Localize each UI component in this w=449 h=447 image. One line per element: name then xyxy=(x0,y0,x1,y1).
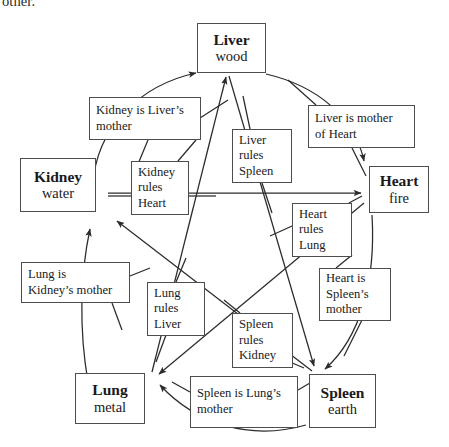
node-kidney-phase: water xyxy=(42,185,74,202)
node-liver-name: Liver xyxy=(213,31,249,48)
leader-heart-lung-b xyxy=(349,196,362,203)
label-lung-is-kidneys-mother[interactable]: Lung is Kidney’s mother xyxy=(21,262,130,303)
label-liver-spleen-line1: Liver xyxy=(239,133,266,149)
label-liver-spleen-line3: Spleen xyxy=(239,164,273,180)
leader-spleen-kidney-a xyxy=(224,300,240,313)
leader-liver-spleen-a xyxy=(243,96,250,129)
label-spleen-is-lungs-mother[interactable]: Spleen is Lung’s mother xyxy=(190,376,298,428)
label-lung-rules-liver[interactable]: Lung rules Liver xyxy=(147,282,205,336)
label-heart-spleen-line1: Heart is xyxy=(326,271,366,287)
label-heart-lung-line1: Heart xyxy=(299,207,327,223)
label-spleen-kidney-line3: Kidney xyxy=(239,348,276,364)
leader-kidney-liver-c xyxy=(200,100,228,118)
node-lung-phase: metal xyxy=(94,399,126,416)
label-lung-liver-line2: rules xyxy=(154,301,178,317)
label-spleen-kidney-line1: Spleen xyxy=(239,317,273,333)
diagram-canvas: other. xyxy=(0,0,449,447)
label-kidney-heart-line1: Kidney xyxy=(138,165,175,181)
label-lung-kidney-line2: Kidney’s mother xyxy=(28,283,112,299)
node-lung[interactable]: Lung metal xyxy=(75,373,145,424)
node-spleen-phase: earth xyxy=(328,401,357,418)
label-spleen-lung-line2: mother xyxy=(197,402,233,418)
label-spleen-rules-kidney[interactable]: Spleen rules Kidney xyxy=(232,313,293,368)
label-liver-rules-spleen[interactable]: Liver rules Spleen xyxy=(232,129,292,183)
label-liver-is-mother-of-heart[interactable]: Liver is mother of Heart xyxy=(308,105,415,148)
node-heart-phase: fire xyxy=(389,190,409,207)
label-heart-lung-line3: Lung xyxy=(299,238,326,254)
node-liver-phase: wood xyxy=(215,48,247,65)
label-heart-rules-lung[interactable]: Heart rules Lung xyxy=(292,203,352,257)
leader-lung-kidney-a xyxy=(130,268,150,276)
label-lung-liver-line1: Lung xyxy=(154,286,181,302)
node-kidney-name: Kidney xyxy=(34,168,82,185)
node-spleen-name: Spleen xyxy=(321,384,365,401)
leader-lung-kidney-b xyxy=(112,303,122,330)
label-lung-kidney-line1: Lung is xyxy=(28,267,66,283)
label-kidney-rules-heart[interactable]: Kidney rules Heart xyxy=(131,161,189,215)
leader-spleen-lung-a xyxy=(172,382,190,392)
arc-lung-to-kidney xyxy=(82,229,90,382)
node-kidney[interactable]: Kidney water xyxy=(20,158,96,212)
node-heart-name: Heart xyxy=(380,172,419,189)
label-kidney-liver-line2: mother xyxy=(96,119,132,135)
leader-liver-heart-b xyxy=(352,148,366,176)
label-lung-liver-line3: Liver xyxy=(154,317,181,333)
label-kidney-is-livers-mother[interactable]: Kidney is Liver’s mother xyxy=(89,97,201,140)
node-spleen[interactable]: Spleen earth xyxy=(309,374,376,428)
label-kidney-heart-line3: Heart xyxy=(138,196,166,212)
node-heart[interactable]: Heart fire xyxy=(369,166,429,213)
leader-liver-spleen-b xyxy=(262,183,272,213)
label-heart-spleen-line2: Spleen’s xyxy=(326,287,369,303)
node-lung-name: Lung xyxy=(92,381,127,398)
label-heart-is-spleens-mother[interactable]: Heart is Spleen’s mother xyxy=(319,268,391,321)
label-kidney-liver-line1: Kidney is Liver’s xyxy=(96,103,184,119)
label-liver-heart-line2: of Heart xyxy=(315,127,357,143)
label-liver-heart-line1: Liver is mother xyxy=(315,111,393,127)
label-heart-lung-line2: rules xyxy=(299,222,323,238)
leader-heart-spleen-b xyxy=(344,320,362,356)
label-liver-spleen-line2: rules xyxy=(239,148,263,164)
label-heart-spleen-line3: mother xyxy=(326,302,362,318)
label-spleen-lung-line1: Spleen is Lung’s xyxy=(197,386,281,402)
leader-kidney-liver-b xyxy=(178,140,196,161)
label-spleen-kidney-line2: rules xyxy=(239,333,263,349)
node-liver[interactable]: Liver wood xyxy=(197,23,266,73)
label-kidney-heart-line2: rules xyxy=(138,180,162,196)
